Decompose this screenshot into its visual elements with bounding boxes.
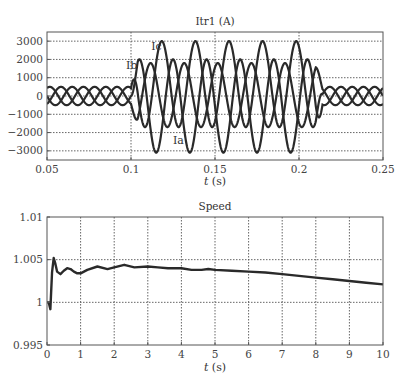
- x-tick-label: 9: [346, 348, 353, 360]
- x-tick-label: 0.1: [123, 163, 140, 175]
- chart-title-itr1: Itr1 (A): [195, 15, 234, 27]
- annotation-ic: Ic: [151, 40, 162, 53]
- x-tick-label: 3: [144, 348, 151, 360]
- speed-chart: Speed 1.011.00510.995 012345678910 t (s): [13, 200, 390, 374]
- y-tick-label: 2000: [16, 53, 43, 65]
- annotation-ia: Ia: [173, 134, 184, 147]
- y-tick-label: 1000: [16, 71, 43, 83]
- y-axis-ticks: 1.011.00510.995: [13, 211, 50, 351]
- y-tick-label: 1.005: [13, 253, 43, 265]
- x-tick-label: 0: [44, 348, 51, 360]
- x-tick-label: 6: [245, 348, 252, 360]
- y-tick-label: 0: [36, 90, 43, 102]
- annotation-ib: Ib: [126, 59, 137, 72]
- x-tick-label: 1: [77, 348, 84, 360]
- y-tick-label: −2000: [7, 126, 43, 138]
- x-axis-label-unit: (s): [208, 175, 226, 188]
- x-tick-label: 4: [178, 348, 185, 360]
- current-waveforms: [47, 41, 383, 152]
- x-tick-label: 2: [111, 348, 118, 360]
- x-tick-label: 0.25: [371, 163, 394, 175]
- y-axis-ticks: 3000200010000−1000−2000−3000: [7, 35, 50, 157]
- y-tick-label: 3000: [16, 35, 43, 47]
- y-tick-label: 1: [36, 296, 43, 308]
- x-axis-label: t (s): [204, 175, 226, 188]
- x-tick-label: 10: [376, 348, 389, 360]
- series-line-ia: [47, 59, 383, 152]
- y-tick-label: 0.995: [13, 339, 43, 351]
- x-axis-label-unit: (s): [208, 361, 226, 374]
- x-tick-label: 0.2: [291, 163, 308, 175]
- x-tick-label: 8: [312, 348, 319, 360]
- x-tick-label: 7: [279, 348, 286, 360]
- x-axis-label: t (s): [204, 361, 226, 374]
- chart-title-speed: Speed: [198, 200, 231, 212]
- y-tick-label: −3000: [7, 144, 43, 156]
- y-tick-label: 1.01: [20, 211, 43, 223]
- x-tick-label: 5: [212, 348, 219, 360]
- itr1-current-chart: Itr1 (A) 3000200010000−1000−2000−3000 0.…: [7, 15, 394, 188]
- x-tick-label: 0.05: [35, 163, 58, 175]
- x-tick-label: 0.15: [203, 163, 226, 175]
- figure: Itr1 (A) 3000200010000−1000−2000−3000 0.…: [0, 0, 408, 386]
- y-tick-label: −1000: [7, 108, 43, 120]
- grid-lines: [47, 217, 383, 345]
